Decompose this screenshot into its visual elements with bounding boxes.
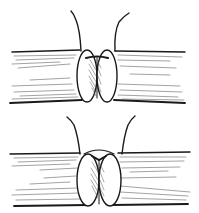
- anastomosis-illustration: [0, 0, 199, 213]
- illustration-canvas: [0, 0, 199, 213]
- bottom-panel: [10, 116, 190, 206]
- top-panel: [10, 11, 185, 103]
